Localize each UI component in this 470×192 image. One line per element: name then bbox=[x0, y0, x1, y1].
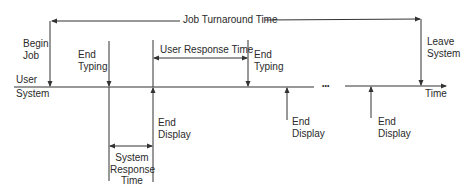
end-display-2-label: End Display bbox=[292, 116, 325, 139]
end-typing-2-label: End Typing bbox=[254, 49, 283, 72]
leave-system-label: Leave System bbox=[427, 36, 460, 59]
ellipsis: ••• bbox=[322, 80, 329, 92]
job-turnaround-label: Job Turnaround Time bbox=[183, 14, 278, 26]
diagram-lines bbox=[0, 0, 470, 192]
user-label: User bbox=[16, 74, 37, 86]
user-response-label: User Response Time bbox=[160, 44, 253, 56]
system-label: System bbox=[16, 88, 49, 100]
turnaround-arrow-right bbox=[265, 19, 420, 20]
timeline-diagram: Job Turnaround Time User Response Time B… bbox=[0, 0, 470, 192]
system-response-label: System Response Time bbox=[110, 152, 154, 187]
time-label: Time bbox=[425, 88, 447, 100]
begin-job-label: Begin Job bbox=[23, 38, 49, 61]
end-display-1-label: End Display bbox=[158, 117, 191, 140]
end-display-3-label: End Display bbox=[378, 116, 411, 139]
end-typing-1-label: End Typing bbox=[78, 49, 107, 72]
